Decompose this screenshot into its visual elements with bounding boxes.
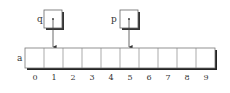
- array-indices: 0 1 2 3 4 5 6 7 8 9: [33, 73, 209, 82]
- index-3: 3: [90, 73, 95, 82]
- index-8: 8: [185, 73, 190, 82]
- pointer-p: p: [111, 10, 140, 47]
- index-5: 5: [128, 73, 133, 82]
- index-0: 0: [33, 73, 38, 82]
- pointer-q: q: [37, 10, 64, 47]
- index-2: 2: [71, 73, 76, 82]
- index-7: 7: [166, 73, 171, 82]
- pointer-p-label: p: [111, 14, 117, 24]
- index-1: 1: [52, 73, 57, 82]
- array-a: a 0 1 2 3 4 5 6 7 8 9: [17, 48, 217, 82]
- index-6: 6: [147, 73, 152, 82]
- pointer-array-diagram: q p a 0 1 2 3 4 5: [0, 0, 230, 93]
- array-a-label: a: [17, 53, 23, 63]
- index-4: 4: [109, 73, 114, 82]
- index-9: 9: [204, 73, 209, 82]
- pointer-q-label: q: [37, 14, 43, 24]
